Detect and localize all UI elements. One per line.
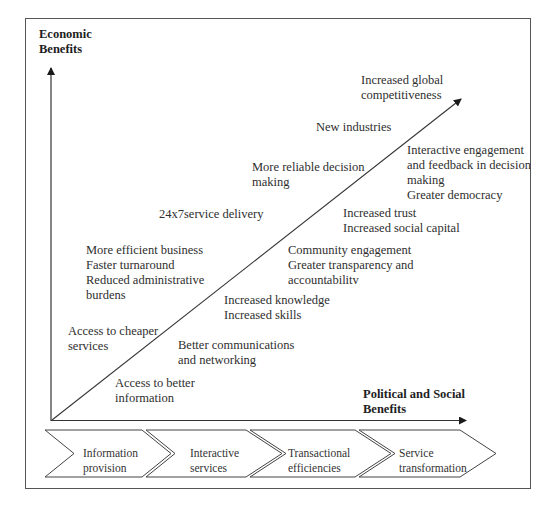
x-axis-title-line: Benefits (363, 402, 465, 417)
label-line: Increased skills (224, 308, 330, 323)
stage-label-line: Interactive (190, 446, 239, 461)
label-line: services (68, 339, 158, 354)
label-line: and networking (178, 353, 294, 368)
stage-label-information-provision: Information provision (83, 446, 138, 475)
x-axis-title-line: Political and Social (363, 387, 465, 402)
label-efficient-business: More efficient business Faster turnaroun… (86, 243, 204, 303)
label-access-better-information: Access to better information (115, 376, 195, 406)
stage-label-transactional-efficiencies: Transactional efficiencies (288, 446, 350, 475)
stage-label-line: Service (399, 446, 467, 461)
label-line: Reduced administrative (86, 273, 204, 288)
label-line: Increased social capital (343, 221, 460, 236)
label-line: 24x7service delivery (159, 207, 263, 222)
label-line: competitiveness (361, 88, 443, 103)
diagram-canvas: Economic Benefits Political and Social B… (0, 0, 554, 507)
label-line: Increased trust (343, 206, 460, 221)
label-line: Faster turnaround (86, 258, 204, 273)
label-interactive-engagement: Interactive engagement and feedback in d… (407, 143, 531, 203)
y-axis-title-line: Benefits (39, 42, 92, 57)
x-axis-title: Political and Social Benefits (363, 387, 465, 417)
label-line: Access to cheaper (68, 324, 158, 339)
label-24x7-service-delivery: 24x7service delivery (159, 207, 263, 222)
stage-label-line: transformation (399, 461, 467, 476)
diagram-graphics (0, 0, 554, 507)
label-trust-social-capital: Increased trust Increased social capital (343, 206, 460, 236)
label-access-cheaper-services: Access to cheaper services (68, 324, 158, 354)
stage-label-line: provision (83, 461, 138, 476)
stage-label-line: efficiencies (288, 461, 350, 476)
label-better-communications: Better communications and networking (178, 338, 294, 368)
label-new-industries: New industries (316, 120, 391, 135)
label-line: making (252, 175, 364, 190)
label-global-competitiveness: Increased global competitiveness (361, 73, 443, 103)
y-axis-title: Economic Benefits (39, 27, 92, 57)
label-community-engagement: Community engagement Greater transparenc… (288, 243, 414, 288)
stage-label-line: Information (83, 446, 138, 461)
label-line: Increased global (361, 73, 443, 88)
label-line: Greater transparency and (288, 258, 414, 273)
label-line: More efficient business (86, 243, 204, 258)
y-axis-title-line: Economic (39, 27, 92, 42)
stage-label-interactive-services: Interactive services (190, 446, 239, 475)
label-line: Greater democracy (407, 188, 531, 203)
label-line: accountabilitv (288, 273, 414, 288)
label-line: and feedback in decision (407, 158, 531, 173)
label-line: burdens (86, 288, 204, 303)
label-line: making (407, 173, 531, 188)
label-line: Better communications (178, 338, 294, 353)
label-line: New industries (316, 120, 391, 135)
label-reliable-decision-making: More reliable decision making (252, 160, 364, 190)
label-line: Community engagement (288, 243, 414, 258)
stage-label-service-transformation: Service transformation (399, 446, 467, 475)
label-line: Interactive engagement (407, 143, 531, 158)
stage-label-line: services (190, 461, 239, 476)
stage-label-line: Transactional (288, 446, 350, 461)
label-line: Access to better (115, 376, 195, 391)
label-line: Increased knowledge (224, 293, 330, 308)
label-line: information (115, 391, 195, 406)
label-knowledge-skills: Increased knowledge Increased skills (224, 293, 330, 323)
label-line: More reliable decision (252, 160, 364, 175)
